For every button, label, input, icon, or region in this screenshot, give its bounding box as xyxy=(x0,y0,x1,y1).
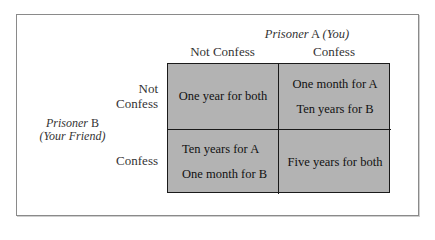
column-player-letter: A xyxy=(311,27,319,41)
row-player-label-italic: Prisoner xyxy=(46,116,88,130)
column-player-label-italic: Prisoner xyxy=(265,27,309,41)
row-player-note: (Your Friend) xyxy=(40,129,106,143)
column-player-note: (You) xyxy=(323,27,350,41)
cell-text: Five years for both xyxy=(288,155,383,170)
payoff-matrix-grid: One year for both One month for A Ten ye… xyxy=(167,63,390,193)
column-player-title: Prisoner A (You) xyxy=(222,27,392,42)
cell-confess-not-confess: Ten years for A One month for B xyxy=(168,130,279,194)
row-header-confess: Confess xyxy=(116,153,158,168)
row-header-line: Confess xyxy=(116,153,158,168)
row-header-line: Not xyxy=(116,81,158,96)
cell-not-confess-not-confess: One year for both xyxy=(168,64,279,130)
row-header-not-confess: Not Confess xyxy=(116,81,158,111)
cell-confess-confess: Five years for both xyxy=(279,130,391,194)
row-player-letter: B xyxy=(91,116,99,130)
column-header-confess: Confess xyxy=(278,44,390,60)
cell-text: One year for both xyxy=(179,89,268,104)
row-player-title: Prisoner B (Your Friend) xyxy=(30,117,115,143)
row-header-line: Confess xyxy=(116,96,158,111)
cell-text: Ten years for B xyxy=(296,102,373,117)
cell-not-confess-confess: One month for A Ten years for B xyxy=(279,64,391,130)
cell-text: Ten years for A xyxy=(182,142,259,157)
cell-text: One month for A xyxy=(292,77,377,92)
cell-text: One month for B xyxy=(182,167,267,182)
column-header-not-confess: Not Confess xyxy=(167,44,278,60)
